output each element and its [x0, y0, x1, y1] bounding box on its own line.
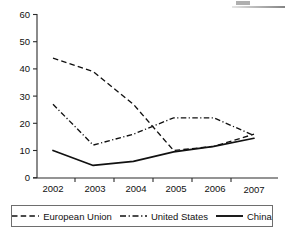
dashed-line-icon	[12, 212, 39, 220]
x-tick-label: 2002	[42, 183, 63, 194]
y-axis-ticks	[33, 15, 37, 178]
x-axis-tick-labels: 2002 2003 2004 2005 2006 2007	[42, 183, 264, 195]
y-tick-label: 20	[19, 118, 30, 129]
y-tick-label: 0	[25, 172, 30, 183]
x-axis-ticks	[75, 178, 231, 182]
y-tick-label: 10	[19, 145, 30, 156]
legend-item-european-union: European Union	[8, 211, 116, 222]
series-line-china	[53, 138, 254, 165]
x-tick-label: 2005	[165, 183, 186, 194]
series-line-united-states	[53, 104, 254, 145]
x-tick-label: 2003	[84, 183, 105, 194]
x-tick-label: 2006	[204, 183, 225, 194]
x-tick-label: 2007	[243, 184, 264, 195]
chart-legend: European Union United States China	[11, 205, 273, 227]
y-axis-tick-labels: 60 50 40 30 20 10 0	[19, 9, 30, 183]
y-tick-label: 30	[19, 91, 30, 102]
solid-line-icon	[216, 212, 243, 220]
legend-item-united-states: United States	[116, 211, 212, 222]
legend-label: United States	[151, 211, 208, 222]
dash-dot-line-icon	[120, 212, 147, 220]
chart-container: 60 50 40 30 20 10 0 2002 2003 2004 2005 …	[0, 0, 285, 233]
y-tick-label: 60	[19, 9, 30, 20]
line-chart-plot: 60 50 40 30 20 10 0 2002 2003 2004 2005 …	[0, 0, 285, 233]
y-tick-label: 50	[19, 36, 30, 47]
legend-label: European Union	[43, 211, 112, 222]
y-tick-label: 40	[19, 63, 30, 74]
legend-label: China	[247, 211, 272, 222]
legend-item-china: China	[212, 211, 276, 222]
series-line-european-union	[53, 58, 254, 150]
x-tick-label: 2004	[125, 183, 146, 194]
